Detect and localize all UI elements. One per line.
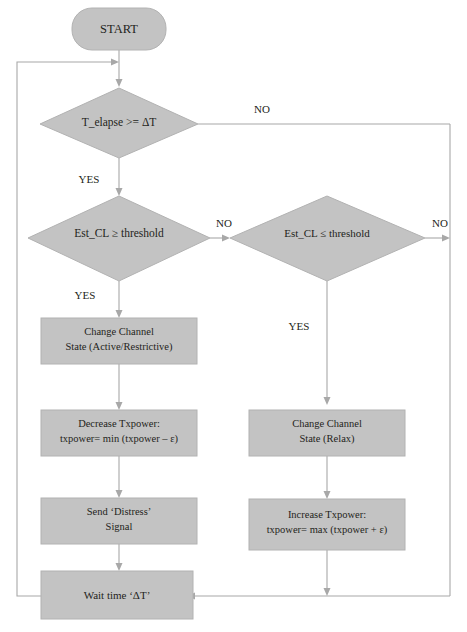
arrowhead-clle-no (442, 235, 450, 242)
flowchart-canvas: START T_elapse >= ΔT Est_CL ≥ threshold … (0, 0, 467, 632)
node-decision-est-cl-le[interactable]: Est_CL ≤ threshold (230, 196, 425, 281)
node-decrease-txpower[interactable]: Decrease Txpower: txpower= min (txpower … (41, 410, 197, 456)
node-decision-time-elapsed[interactable]: T_elapse >= ΔT (40, 88, 198, 158)
node-start[interactable]: START (72, 8, 166, 50)
decrease-txpower-line1: Decrease Txpower: (78, 418, 160, 429)
change-channel-active-line1: Change Channel (84, 326, 154, 337)
send-distress-line2: Signal (106, 521, 133, 532)
node-increase-txpower[interactable]: Increase Txpower: txpower= max (txpower … (249, 499, 405, 550)
arrowhead-clge-yes (116, 310, 123, 318)
arrowhead-start-to-time (116, 79, 123, 87)
arrowhead-decrease-to-distress (116, 490, 123, 498)
decision-clge-label: Est_CL ≥ threshold (74, 227, 164, 239)
edge-label-clle-no: NO (432, 217, 448, 229)
edge-label-time-yes: YES (79, 173, 100, 185)
increase-txpower-line1: Increase Txpower: (288, 509, 366, 520)
edge-label-time-no: NO (254, 103, 270, 115)
change-channel-relax-line1: Change Channel (292, 418, 362, 429)
decision-time-label: T_elapse >= ΔT (82, 116, 157, 129)
decrease-txpower-line2: txpower= min (txpower – ε) (60, 433, 179, 445)
node-change-channel-relax[interactable]: Change Channel State (Relax) (249, 410, 405, 456)
arrowhead-time-yes (116, 188, 123, 196)
arrowhead-increase-to-bottom (324, 588, 331, 596)
node-wait-time[interactable]: Wait time ‘ΔT’ (41, 571, 193, 619)
arrowhead-change-to-decrease (116, 402, 123, 410)
change-channel-relax-line2: State (Relax) (299, 433, 355, 445)
start-label: START (100, 22, 138, 36)
edge-label-clge-no: NO (216, 217, 232, 229)
wait-time-line1: Wait time ‘ΔT’ (84, 589, 151, 601)
node-change-channel-active[interactable]: Change Channel State (Active/Restrictive… (41, 318, 197, 364)
flowchart-svg: START T_elapse >= ΔT Est_CL ≥ threshold … (0, 0, 467, 632)
arrowhead-distress-to-wait (116, 563, 123, 571)
arrowhead-relax-to-increase (324, 491, 331, 499)
node-send-distress[interactable]: Send ‘Distress’ Signal (41, 498, 197, 544)
increase-txpower-line2: txpower= max (txpower + ε) (267, 524, 388, 536)
arrowhead-loop-to-time (111, 59, 119, 66)
edge-label-clle-yes: YES (289, 320, 310, 332)
change-channel-active-line2: State (Active/Restrictive) (65, 341, 173, 353)
edge-label-clge-yes: YES (75, 289, 96, 301)
arrowhead-clle-yes (324, 397, 331, 405)
node-decision-est-cl-ge[interactable]: Est_CL ≥ threshold (28, 196, 210, 281)
send-distress-line1: Send ‘Distress’ (87, 506, 151, 517)
decision-clle-label: Est_CL ≤ threshold (284, 227, 370, 239)
